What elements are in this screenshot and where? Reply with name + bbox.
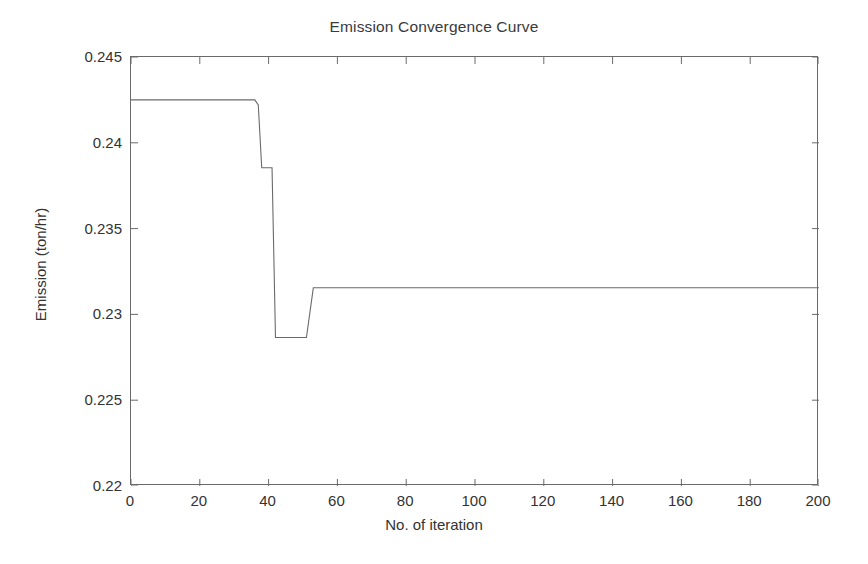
y-tick-label-023: 0.23 <box>52 305 122 322</box>
x-tick-label-80: 80 <box>397 492 414 509</box>
emission-series-line <box>131 100 819 338</box>
x-tick-label-200: 200 <box>805 492 830 509</box>
y-axis-label: Emission (ton/hr) <box>32 165 49 365</box>
x-tick-label-20: 20 <box>190 492 207 509</box>
x-tick-label-60: 60 <box>328 492 345 509</box>
x-tick-label-180: 180 <box>737 492 762 509</box>
x-tick-label-40: 40 <box>259 492 276 509</box>
x-tick-label-100: 100 <box>461 492 486 509</box>
axis-tick-marks <box>131 57 819 486</box>
x-tick-label-0: 0 <box>126 492 134 509</box>
emission-convergence-plot <box>131 57 819 486</box>
x-tick-label-120: 120 <box>530 492 555 509</box>
x-tick-label-140: 140 <box>599 492 624 509</box>
y-tick-label-024: 0.24 <box>52 133 122 150</box>
chart-title: Emission Convergence Curve <box>0 18 868 36</box>
figure-canvas: Emission Convergence Curve Emission (ton… <box>0 0 868 564</box>
plot-area <box>130 56 818 485</box>
y-tick-label-0225: 0.225 <box>52 391 122 408</box>
x-axis-label: No. of iteration <box>0 516 868 533</box>
y-axis-tick-labels: 0.245 0.24 0.235 0.23 0.225 0.22 <box>50 0 122 564</box>
y-tick-label-0235: 0.235 <box>52 219 122 236</box>
y-tick-label-022: 0.22 <box>52 477 122 494</box>
y-tick-label-0245: 0.245 <box>52 48 122 65</box>
x-tick-label-160: 160 <box>668 492 693 509</box>
